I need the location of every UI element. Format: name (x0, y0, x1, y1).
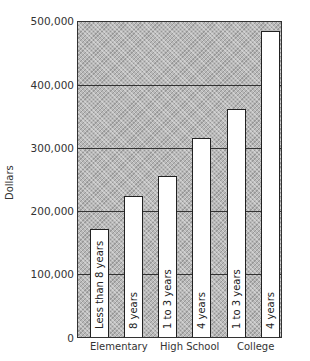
gridline (78, 85, 281, 86)
group-label-high-school: High School (160, 341, 219, 352)
bar-highschool-1-3: 1 to 3 years (158, 176, 177, 337)
gridline (78, 211, 281, 212)
group-label-college: College (237, 341, 274, 352)
bar-chart: Dollars 500,000 400,000 300,000 200,000 … (0, 0, 310, 361)
y-tick-400000: 400,000 (31, 79, 74, 91)
plot-area: Less than 8 years 8 years 1 to 3 years 4… (77, 21, 282, 338)
y-tick-300000: 300,000 (31, 142, 74, 154)
y-tick-0: 0 (67, 332, 74, 344)
bar-college-4: 4 years (261, 31, 280, 337)
y-tick-100000: 100,000 (31, 268, 74, 280)
bar-elementary-8: 8 years (124, 196, 143, 337)
y-tick-200000: 200,000 (31, 205, 74, 217)
bar-highschool-4: 4 years (192, 138, 211, 337)
bar-label: 8 years (128, 292, 139, 329)
gridline (78, 148, 281, 149)
bar-label: 4 years (196, 292, 207, 329)
bar-elementary-less-than-8: Less than 8 years (90, 229, 109, 337)
group-label-elementary: Elementary (90, 341, 148, 352)
bar-label: 4 years (265, 292, 276, 329)
bar-college-1-3: 1 to 3 years (227, 109, 246, 337)
bar-label: Less than 8 years (94, 241, 105, 329)
bar-label: 1 to 3 years (162, 269, 173, 329)
bar-label: 1 to 3 years (231, 269, 242, 329)
y-tick-500000: 500,000 (31, 15, 74, 27)
y-axis-label: Dollars (4, 165, 15, 200)
